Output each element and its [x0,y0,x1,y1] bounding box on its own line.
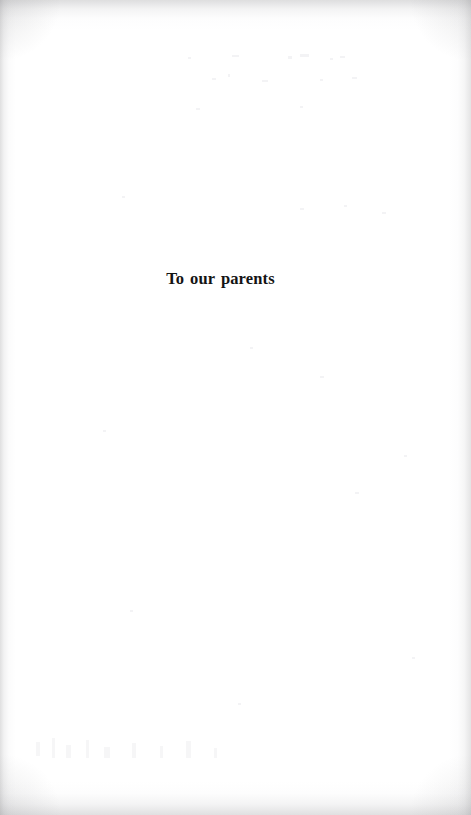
scan-edge-left-shadow [0,0,16,815]
document-page: To our parents [0,0,471,815]
scan-corner-top-left [0,0,60,60]
dedication-text: To our parents [0,268,441,290]
scan-edge-bottom-shadow [0,781,471,815]
scan-noise [0,0,471,815]
scan-corner-bottom-right [411,755,471,815]
scan-edge-top-shadow [0,0,471,30]
scan-corner-top-right [411,0,471,60]
scan-edge-right-shadow [449,0,471,815]
scan-corner-bottom-left [0,755,60,815]
